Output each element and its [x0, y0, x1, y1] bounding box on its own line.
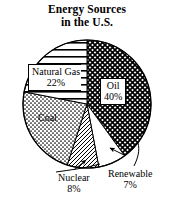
pie-label-natural-gas-name: Natural Gas — [32, 66, 80, 77]
pie-chart: Energy Sources in the U.S. — [0, 0, 174, 214]
pie-label-natural-gas-percent: 22% — [47, 77, 65, 88]
pie-label-coal-name: Coal — [38, 112, 57, 123]
pie-label-oil: Oil 40% — [100, 78, 126, 105]
pie-label-nuclear: Nuclear 8% — [58, 172, 90, 194]
pie-label-nuclear-percent: 8% — [67, 183, 80, 194]
pie-label-renewable: Renewable 7% — [108, 168, 152, 190]
pie-label-nuclear-name: Nuclear — [58, 172, 90, 183]
pie-label-renewable-name: Renewable — [108, 168, 152, 179]
pie-label-coal: Coal — [38, 112, 57, 123]
pie-label-oil-percent: 40% — [104, 91, 122, 102]
pie-label-natural-gas: Natural Gas 22% — [28, 64, 81, 91]
pie-label-oil-name: Oil — [107, 80, 120, 91]
pie-label-renewable-percent: 7% — [124, 179, 137, 190]
